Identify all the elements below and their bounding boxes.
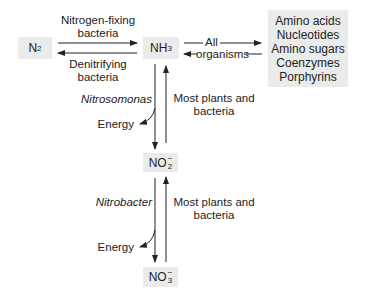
label-plants-1: Most plants and bacteria [172,92,256,118]
label-line: bacteria [172,209,256,222]
arrow-energy-2 [140,230,155,247]
node-n2: N2 [18,37,52,59]
nh3-sub: 3 [167,44,171,53]
label-line: Nitrogen-fixing [58,14,138,27]
label-nitrogen-fixing: Nitrogen-fixing bacteria [58,14,138,40]
no3-base: NO [149,270,167,284]
label-organisms: organisms [196,48,247,61]
n2-sub: 2 [37,44,41,53]
label-denitrifying: Denitrifying bacteria [58,58,138,84]
no2-sup: − [168,155,173,162]
label-line: Most plants and [172,196,256,209]
label-nitrobacter: Nitrobacter [80,196,152,209]
compound-item: Amino sugars [271,42,344,56]
node-nh3: NH3 [143,37,179,59]
no3-sub: 3 [168,277,173,284]
no3-sup: − [168,269,173,276]
node-no3: NO−3 [143,267,178,287]
no2-base: NO [149,156,167,170]
label-line: Denitrifying [58,58,138,71]
label-line: bacteria [172,105,256,118]
compound-item: Amino acids [275,14,340,28]
nh3-base: NH [150,41,167,55]
compound-item: Coenzymes [276,56,339,70]
label-energy-2: Energy [94,241,134,254]
label-plants-2: Most plants and bacteria [172,196,256,222]
no2-sub: 2 [168,163,173,170]
compound-item: Porphyrins [279,70,336,84]
n2-base: N [28,41,37,55]
label-line: Most plants and [172,92,256,105]
label-line: bacteria [58,71,138,84]
label-energy-1: Energy [94,118,134,131]
label-nitrosomonas: Nitrosomonas [80,93,152,106]
label-line: bacteria [58,27,138,40]
node-no2: NO−2 [143,153,178,172]
arrow-energy-1 [140,108,155,124]
compound-item: Nucleotides [277,28,340,42]
node-compounds: Amino acids Nucleotides Amino sugars Coe… [268,10,348,87]
